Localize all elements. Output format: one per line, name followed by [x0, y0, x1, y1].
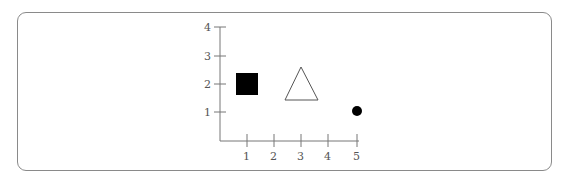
y-tick-labels: 1 2 3 4 [204, 21, 211, 119]
y-tick-label: 4 [204, 21, 211, 34]
x-tick-label: 2 [270, 150, 277, 163]
x-tick-label: 4 [324, 150, 331, 163]
y-tick-label: 2 [204, 78, 211, 91]
x-tick-labels: 1 2 3 4 5 [243, 150, 360, 163]
x-tick-label: 3 [297, 150, 304, 163]
x-tick-label: 1 [243, 150, 250, 163]
y-tick-label: 1 [204, 106, 211, 119]
coordinate-plot: 1 2 3 4 1 2 3 4 5 [0, 0, 564, 182]
x-tick-label: 5 [353, 150, 360, 163]
y-tick-label: 3 [204, 50, 211, 63]
filled-square-shape [236, 73, 258, 95]
filled-circle-shape [352, 106, 362, 116]
hollow-triangle-shape [285, 67, 318, 100]
